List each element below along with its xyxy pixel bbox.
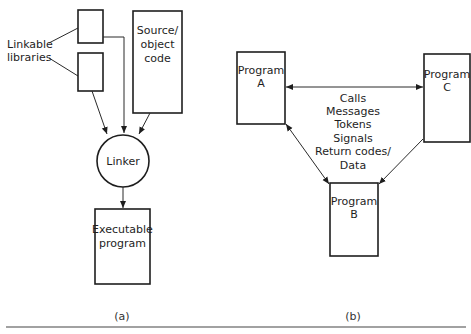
interaction-label-data: Data — [340, 159, 366, 172]
source-label-line1: Source/ — [137, 24, 179, 37]
library-box-upper — [78, 10, 103, 43]
library-box-lower — [78, 53, 103, 91]
arrow-upper-lib-to-linker — [103, 37, 124, 133]
interaction-label-tokens: Tokens — [333, 118, 371, 131]
arrow-source-to-linker — [139, 113, 150, 134]
interaction-label-return-codes: Return codes/ — [315, 145, 391, 158]
linkable-libraries-label-line2: libraries — [7, 51, 52, 64]
linker-label: Linker — [106, 155, 140, 168]
diagram-canvas: Linkable libraries Source/ object code L… — [0, 0, 471, 334]
arrow-lower-lib-to-linker — [92, 91, 107, 134]
caption-b: (b) — [345, 310, 361, 323]
interaction-label-messages: Messages — [326, 105, 380, 118]
executable-label-line2: program — [99, 237, 146, 250]
diagram-b: Program A Program C Program B Calls Mess… — [237, 52, 470, 323]
label-pointer-upper — [49, 28, 78, 43]
program-b-label-line2: B — [350, 208, 358, 221]
interaction-label-calls: Calls — [340, 92, 367, 105]
program-c-label-line2: C — [443, 81, 451, 94]
caption-a: (a) — [114, 310, 129, 323]
label-pointer-lower — [49, 58, 78, 76]
program-a-label-line1: Program — [238, 64, 284, 77]
executable-label-line1: Executable — [92, 223, 153, 236]
source-label-line3: code — [144, 52, 171, 65]
interaction-label-signals: Signals — [333, 132, 373, 145]
program-a-label-line2: A — [257, 77, 265, 90]
diagram-a: Linkable libraries Source/ object code L… — [7, 10, 182, 323]
linkable-libraries-label-line1: Linkable — [7, 38, 53, 51]
program-c-label-line1: Program — [424, 68, 470, 81]
program-b-label-line1: Program — [331, 195, 377, 208]
source-label-line2: object — [141, 38, 176, 51]
